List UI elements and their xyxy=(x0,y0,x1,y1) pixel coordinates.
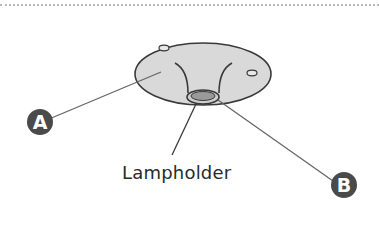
marker-b: B xyxy=(331,172,357,198)
ceiling-rose-diagram: A B xyxy=(0,0,379,236)
lampholder-opening xyxy=(191,92,215,101)
screw-hole-right xyxy=(247,70,257,76)
marker-b-label: B xyxy=(337,174,351,196)
screw-hole-left xyxy=(159,45,169,51)
leader-line-b xyxy=(218,100,333,181)
leader-line-lampholder xyxy=(172,104,196,155)
marker-a: A xyxy=(27,109,53,135)
leader-line-a xyxy=(42,72,161,122)
marker-a-label: A xyxy=(33,111,48,133)
lampholder-label: Lampholder xyxy=(122,162,231,183)
